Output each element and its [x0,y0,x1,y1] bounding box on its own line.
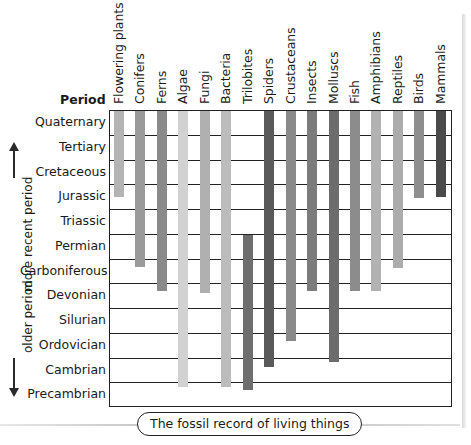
column-header-label: Flowering plants [111,3,126,104]
column-header-label: Mammals [433,44,448,104]
column-header-label: Algae [175,69,190,104]
column-header-label: Ferns [154,71,169,104]
older-label: older period [21,280,35,353]
row-divider [109,358,452,359]
period-label-tertiary: Tertiary [20,139,106,155]
period-label-precambrian: Precambrian [20,386,106,402]
row-divider [109,308,452,309]
column-header-label: Fish [347,80,362,104]
bar-spiders [264,111,274,367]
bar-fungi [200,111,210,293]
arrow-down-shaft [13,358,15,390]
bar-birds [414,111,424,198]
column-header-label: Reptiles [390,55,405,104]
bar-algae [178,111,188,387]
column-header-label: Birds [411,73,426,104]
period-label-cambrian: Cambrian [20,362,106,378]
arrow-down-icon [9,388,19,397]
bar-reptiles [393,111,403,268]
bar-flowering-plants [114,111,124,197]
bar-fish [350,111,360,291]
column-header-label: Insects [304,61,319,104]
column-header-label: Crustaceans [283,28,298,104]
bar-trilobites [243,235,253,390]
period-label-quaternary: Quaternary [20,114,106,130]
bar-amphibians [371,111,381,291]
bar-molluscs [329,111,339,362]
column-header-label: Amphibians [368,31,383,104]
bar-mammals [436,111,446,197]
row-divider [109,382,452,383]
column-header-label: Trilobites [240,49,255,104]
bar-crustaceans [286,111,296,341]
bar-insects [307,111,317,291]
column-header-label: Spiders [261,58,276,104]
column-header-label: Bacteria [218,53,233,104]
column-header-label: Molluscs [326,52,341,104]
more-recent-label: more recent period [21,177,35,292]
time-direction-axis: more recent period older period [6,142,22,404]
bar-bacteria [221,111,231,387]
bar-ferns [157,111,167,291]
period-header: Period [60,92,105,107]
row-divider [109,333,452,334]
arrow-up-shaft [13,150,15,178]
chart-caption: The fossil record of living things [137,412,362,436]
bar-conifers [135,111,145,267]
column-header-label: Conifers [132,53,147,104]
column-header-label: Fungi [197,71,212,104]
page-shadow-right [462,14,466,428]
